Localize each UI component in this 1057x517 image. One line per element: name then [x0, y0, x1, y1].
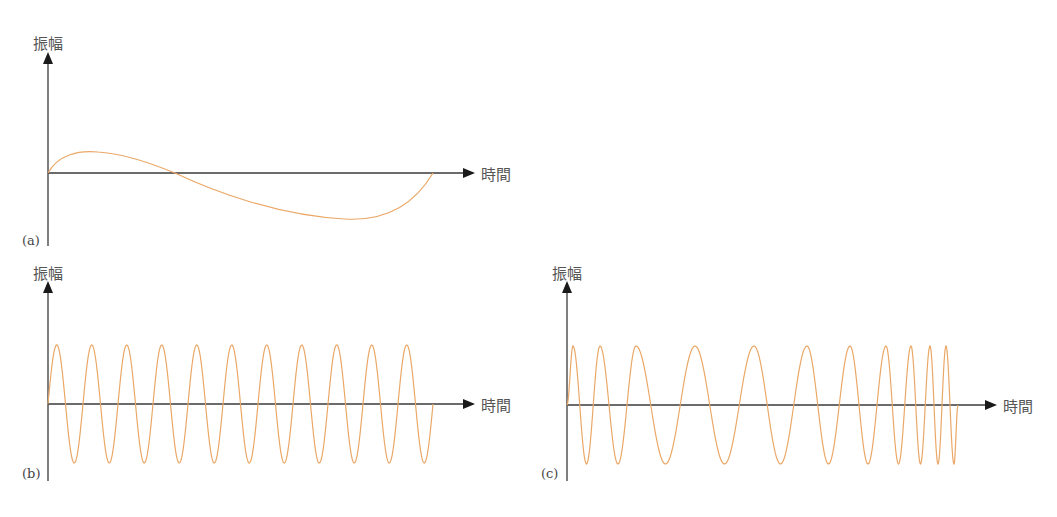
- panel-a: 振幅 時間 (a): [22, 35, 511, 248]
- y-axis-label: 振幅: [33, 35, 63, 53]
- x-axis-label: 時間: [1003, 398, 1033, 416]
- y-axis-label: 振幅: [552, 265, 582, 283]
- figure-canvas: 振幅 時間 (a) 振幅 時間 (b) 振幅 時間 (c): [0, 0, 1057, 517]
- panel-tag: (c): [541, 466, 558, 481]
- waveform: [48, 152, 433, 220]
- x-axis-label: 時間: [481, 397, 511, 415]
- x-axis-label: 時間: [481, 166, 511, 184]
- panel-tag: (a): [22, 233, 40, 248]
- y-axis-label: 振幅: [33, 265, 63, 283]
- panel-tag: (b): [22, 466, 40, 481]
- panel-b: 振幅 時間 (b): [22, 265, 511, 481]
- panel-c: 振幅 時間 (c): [541, 265, 1033, 481]
